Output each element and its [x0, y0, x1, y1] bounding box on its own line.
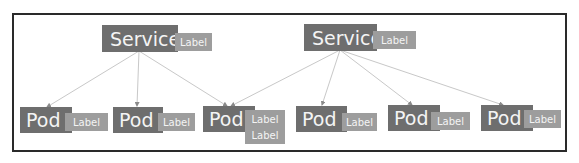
pod-label-4: Label	[342, 113, 377, 131]
pod-node-4: Pod	[296, 106, 347, 132]
service-name: Service	[110, 28, 180, 50]
pod-label-2: Label	[158, 113, 195, 131]
pod-label-3b: Label	[245, 126, 285, 144]
service-name: Service	[312, 27, 382, 49]
edge-s1-p2	[137, 51, 139, 106]
service-node-1: Service	[102, 25, 178, 52]
pod-name: Pod	[394, 107, 428, 129]
pod-label-6: Label	[524, 110, 561, 128]
pod-name: Pod	[487, 107, 521, 129]
pod-name: Pod	[119, 109, 153, 131]
pod-label-1: Label	[65, 113, 108, 131]
edge-s2-p6	[340, 50, 503, 105]
pod-node-2: Pod	[113, 107, 163, 133]
pod-label-5: Label	[431, 112, 470, 130]
service-label-1: Label	[175, 33, 212, 51]
pod-name: Pod	[209, 108, 243, 130]
connector-lines	[0, 0, 579, 163]
pod-name: Pod	[26, 109, 60, 131]
service-label-2: Label	[373, 31, 416, 49]
edge-s2-p5	[340, 50, 412, 105]
pod-name: Pod	[302, 108, 336, 130]
edge-s1-p1	[47, 51, 139, 107]
edge-s1-p3	[139, 51, 227, 106]
service-node-2: Service	[304, 24, 377, 51]
edge-s2-p3	[231, 50, 340, 106]
